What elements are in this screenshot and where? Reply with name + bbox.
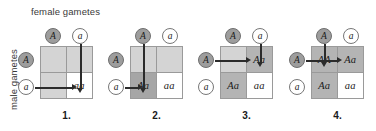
punnett-grid: aa <box>40 46 93 99</box>
punnett-cell <box>41 73 67 99</box>
punnett-square-2: AaaaAaAa2. <box>90 0 185 131</box>
punnett-square-4: AAAaAaaaAaAa4. <box>271 0 366 131</box>
horizontal-gamete-arrow <box>306 60 337 62</box>
punnett-cell: Aa <box>221 73 247 99</box>
gamete-circle-left-A: A <box>289 52 305 68</box>
punnett-cell: Aa <box>312 73 338 99</box>
gamete-circle-left-a: a <box>108 79 124 95</box>
punnett-square-caption: 4. <box>311 110 364 121</box>
punnett-square-3: AaAaaaAaAa3. <box>180 0 275 131</box>
punnett-cell: aa <box>338 73 364 99</box>
horizontal-gamete-arrow <box>35 87 72 89</box>
vertical-gamete-arrowhead <box>321 62 327 67</box>
gamete-circle-left-A: A <box>18 52 34 68</box>
horizontal-gamete-arrowhead <box>246 57 251 63</box>
gamete-circle-top-A: A <box>225 28 241 44</box>
punnett-grid: Aaaa <box>130 46 183 99</box>
gamete-circle-top-a: a <box>72 28 88 44</box>
punnett-grid: AAAaAaaa <box>311 46 364 99</box>
horizontal-gamete-arrowhead <box>138 84 143 90</box>
punnett-square-caption: 1. <box>40 110 93 121</box>
vertical-gamete-arrowhead <box>257 62 263 67</box>
gamete-circle-top-A: A <box>316 28 332 44</box>
punnett-cell <box>157 47 183 73</box>
horizontal-gamete-arrowhead <box>72 84 77 90</box>
gamete-circle-top-a: a <box>252 28 268 44</box>
punnett-cell: aa <box>157 73 183 99</box>
gamete-circle-left-a: a <box>198 79 214 95</box>
horizontal-gamete-arrow <box>215 60 246 62</box>
gamete-circle-left-A: A <box>108 52 124 68</box>
vertical-gamete-arrow <box>260 44 262 62</box>
vertical-gamete-arrow <box>80 44 82 88</box>
punnett-cell: aa <box>247 73 273 99</box>
horizontal-gamete-arrowhead <box>337 57 342 63</box>
vertical-gamete-arrow <box>143 44 145 88</box>
punnett-grid: AaAaaa <box>220 46 273 99</box>
horizontal-gamete-arrow <box>125 87 138 89</box>
gamete-circle-top-A: A <box>45 28 61 44</box>
gamete-circle-top-a: a <box>343 28 359 44</box>
gamete-circle-left-a: a <box>18 79 34 95</box>
gamete-circle-top-a: a <box>162 28 178 44</box>
punnett-cell <box>41 47 67 73</box>
vertical-gamete-arrowhead <box>77 88 83 93</box>
gamete-circle-left-A: A <box>198 52 214 68</box>
punnett-square-caption: 2. <box>130 110 183 121</box>
gamete-circle-left-a: a <box>289 79 305 95</box>
punnett-square-1: aaAaAa1. <box>0 0 95 131</box>
punnett-square-caption: 3. <box>220 110 273 121</box>
gamete-circle-top-A: A <box>135 28 151 44</box>
